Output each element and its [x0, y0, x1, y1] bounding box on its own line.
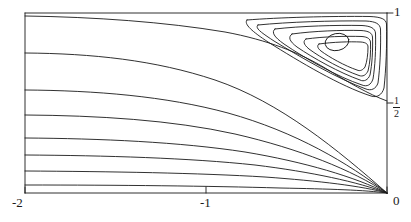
x-axis-tick-label-zero: 0 [393, 194, 400, 207]
fraction-denominator: 2 [393, 109, 400, 119]
y-axis-tick-label-one: 1 [394, 5, 401, 18]
fraction-numerator: 1 [393, 96, 400, 106]
eddy-contour-outer [246, 16, 387, 96]
fraction-one-half: 1 2 [393, 96, 400, 119]
eddy-contour-4 [273, 25, 375, 85]
x-axis-tick-label-minus-1: -1 [200, 196, 211, 209]
plot-canvas [0, 0, 411, 222]
streamline-4 [25, 115, 387, 193]
streamline-figure: -2 -1 0 1 1 2 [0, 0, 411, 222]
eddy-contour-1 [318, 42, 368, 71]
x-axis-tick-label-minus-2: -2 [12, 196, 23, 209]
y-axis-tick-label-one-half: 1 2 [393, 93, 400, 119]
